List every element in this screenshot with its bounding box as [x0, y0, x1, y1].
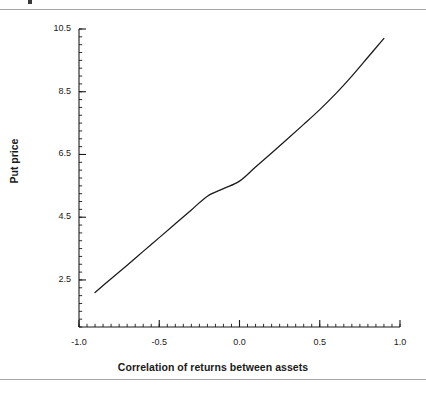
y-axis-title: Put price [8, 121, 20, 201]
x-tick-label: -0.5 [139, 337, 179, 347]
x-tick-label: 0.5 [300, 337, 340, 347]
x-axis-title: Correlation of returns between assets [0, 361, 426, 373]
y-tick-label: 10.5 [37, 23, 71, 33]
line-chart-plot [0, 0, 426, 394]
y-tick-label: 2.5 [37, 274, 71, 284]
y-tick-label: 4.5 [37, 211, 71, 221]
figure-container: 2.54.56.58.510.5 -1.0-0.50.00.51.0 Put p… [0, 0, 426, 394]
y-tick-label: 8.5 [37, 86, 71, 96]
minor-tick-marks [79, 29, 400, 327]
x-tick-label: 0.0 [220, 337, 260, 347]
y-tick-label: 6.5 [37, 148, 71, 158]
axis-lines [79, 29, 400, 327]
major-tick-marks [79, 29, 400, 327]
x-tick-label: -1.0 [59, 337, 99, 347]
x-tick-label: 1.0 [380, 337, 420, 347]
data-series-line [95, 38, 384, 292]
